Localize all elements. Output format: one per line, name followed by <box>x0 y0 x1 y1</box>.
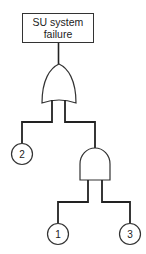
or-left-branch <box>22 100 52 143</box>
event-label: 1 <box>55 229 61 240</box>
and-gate-icon <box>80 148 110 180</box>
event-label: 2 <box>19 149 25 160</box>
basic-event-3: 3 <box>120 224 141 245</box>
or-gate-icon <box>42 64 76 103</box>
basic-event-2: 2 <box>12 144 33 165</box>
top-event-line1: SU system <box>33 16 84 28</box>
top-event-box: SU system failure <box>22 13 94 43</box>
and-right-branch <box>102 180 130 223</box>
top-event-line2: failure <box>44 28 73 40</box>
event-label: 3 <box>127 229 133 240</box>
and-left-branch <box>58 180 88 223</box>
or-right-branch <box>65 100 95 148</box>
basic-event-1: 1 <box>48 224 69 245</box>
